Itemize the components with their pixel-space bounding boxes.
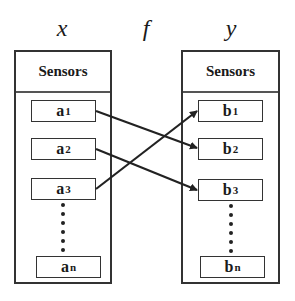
arrow-a2-to-b3 <box>96 149 197 190</box>
mapping-arrows <box>0 0 295 301</box>
arrow-a3-to-b1 <box>96 111 197 189</box>
arrow-a1-to-b2 <box>96 111 197 148</box>
